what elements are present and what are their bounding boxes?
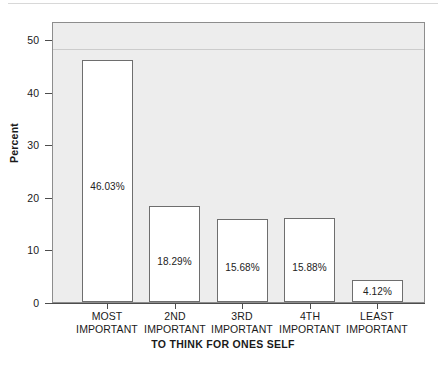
- x-category-line-1: LEAST: [337, 310, 417, 323]
- y-axis: 50 40 30 20 10 0: [0, 0, 52, 370]
- bar-value-label: 15.68%: [218, 262, 267, 273]
- scan-artifact-streak: [53, 49, 424, 50]
- y-axis-title: Percent: [8, 123, 20, 163]
- bar-3rd-important: 15.68%: [217, 219, 268, 302]
- x-category-label-least-important: LEAST IMPORTANT: [337, 310, 417, 336]
- x-axis-title: TO THINK FOR ONES SELF: [0, 338, 446, 350]
- y-tick-label-40: 40: [27, 87, 39, 99]
- x-tick-mark-1: [107, 304, 108, 309]
- x-category-line-2: IMPORTANT: [337, 323, 417, 336]
- bar-4th-important: 15.88%: [284, 218, 335, 302]
- x-tick-mark-3: [242, 304, 243, 309]
- bar-most-important: 46.03%: [82, 60, 133, 303]
- bar-chart-figure: 50 40 30 20 10 0 Percent 46.03% 18.29% 1…: [0, 0, 446, 370]
- x-tick-mark-5: [377, 304, 378, 309]
- y-tick-label-10: 10: [27, 244, 39, 256]
- bar-value-label: 46.03%: [83, 181, 132, 192]
- bar-value-label: 15.88%: [285, 262, 334, 273]
- bar-2nd-important: 18.29%: [149, 206, 200, 302]
- plot-area: 46.03% 18.29% 15.68% 15.88% 4.12%: [52, 22, 425, 303]
- x-tick-mark-4: [310, 304, 311, 309]
- y-tick-mark-20: [45, 198, 52, 199]
- y-tick-mark-0: [45, 303, 52, 304]
- y-tick-mark-50: [45, 40, 52, 41]
- y-tick-label-50: 50: [27, 34, 39, 46]
- bar-value-label: 4.12%: [353, 286, 402, 297]
- y-tick-mark-30: [45, 145, 52, 146]
- bar-value-label: 18.29%: [150, 256, 199, 267]
- x-tick-mark-2: [175, 304, 176, 309]
- y-tick-label-30: 30: [27, 139, 39, 151]
- bar-least-important: 4.12%: [352, 280, 403, 302]
- y-tick-mark-40: [45, 93, 52, 94]
- y-tick-mark-10: [45, 250, 52, 251]
- y-tick-label-0: 0: [33, 297, 39, 309]
- y-tick-label-20: 20: [27, 192, 39, 204]
